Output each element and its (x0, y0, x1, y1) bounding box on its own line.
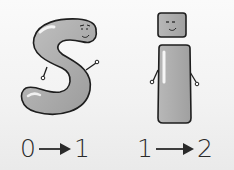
illustration: 0 1 1 2 (0, 0, 234, 170)
s-character (21, 19, 98, 114)
s-mapping-label: 0 1 (20, 134, 90, 164)
s-mapping-from: 0 (20, 134, 36, 164)
s-body (21, 19, 96, 114)
s-right-hand (95, 60, 99, 64)
right-arrow-icon (155, 142, 195, 156)
i-left-arm (153, 70, 158, 81)
i-left-hand (150, 80, 154, 84)
s-left-hand (41, 76, 45, 80)
s-mapping-to: 1 (74, 134, 90, 164)
i-mapping-to: 2 (197, 134, 213, 164)
s-right-arm (86, 63, 96, 70)
i-right-hand (195, 82, 199, 86)
right-arrow-icon (38, 142, 72, 156)
i-mapping-from: 1 (137, 134, 153, 164)
i-mapping-label: 1 2 (137, 134, 213, 164)
i-dot (158, 13, 186, 37)
i-character (150, 13, 199, 123)
